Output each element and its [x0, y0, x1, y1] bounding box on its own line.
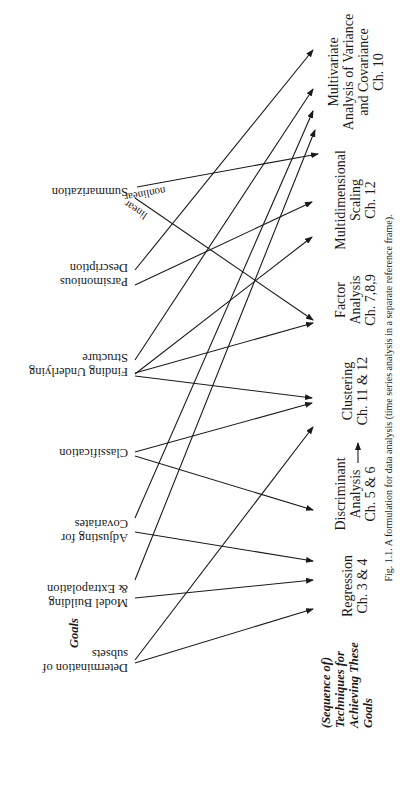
edges-layer: nonlinearlinear — [121, 50, 358, 663]
technique-label-line: Analysis — [348, 470, 363, 519]
technique-clustering: ClusteringCh. 11 & 12 — [340, 357, 370, 426]
technique-label-line: Ch. 12 — [363, 181, 378, 218]
goal-label-line: Summarization — [51, 185, 128, 199]
goal-label-line: Finding Underlying — [28, 365, 128, 379]
technique-label-line: Discriminant — [333, 457, 348, 530]
goal-label-line: & Extrapolation — [46, 582, 128, 596]
techniques-heading-line: Achieving These — [347, 642, 361, 729]
techniques-heading-line: (Sequence of) — [319, 657, 333, 728]
goal-parsimonious-description: DescriptionParsimonious — [60, 261, 128, 289]
technique-label-line: Scaling — [348, 179, 363, 221]
goal-label-line: subsets — [92, 647, 128, 661]
edge-summarization — [137, 154, 318, 187]
goal-label-line: Parsimonious — [60, 275, 128, 289]
edge-parsimonious-description — [135, 202, 312, 285]
edge-summarization — [135, 198, 313, 320]
goal-label-line: Description — [69, 261, 128, 275]
edge-finding-underlying-structure — [135, 237, 312, 374]
figure-caption: Fig. 1.1. A formulation for data analysi… — [383, 214, 395, 581]
goal-summarization: Summarization — [51, 185, 128, 199]
technique-label-line: Ch. 3 & 4 — [355, 558, 370, 613]
technique-label-line: Regression — [340, 555, 355, 617]
goal-label-line: Adjusting for — [60, 531, 128, 545]
technique-label-line: Ch. 7,8,9 — [363, 274, 378, 325]
goal-label-line: Model Building — [48, 596, 128, 610]
technique-label-line: Analysis — [348, 276, 363, 325]
goal-finding-underlying-structure: StructureFinding Underlying — [28, 351, 128, 379]
technique-regression: RegressionCh. 3 & 4 — [340, 555, 370, 617]
edge-classification — [135, 456, 313, 510]
edge-model-building-extrapolation — [135, 580, 313, 598]
technique-label-line: and Covariance — [356, 28, 371, 115]
goals-heading: Goals — [67, 618, 81, 648]
technique-label-line: Clustering — [340, 362, 355, 420]
goal-model-building-extrapolation: & ExtrapolationModel Building — [46, 582, 128, 610]
edge-finding-underlying-structure — [135, 323, 313, 373]
technique-label-line: Analysis of Variance — [341, 14, 356, 130]
technique-label-line: Multivariate — [326, 37, 341, 106]
techniques-heading: (Sequence of)Techniques forAchieving The… — [319, 642, 375, 729]
technique-factor-analysis: FactorAnalysisCh. 7,8,9 — [333, 274, 378, 325]
goal-label-line: Classification — [59, 446, 128, 460]
goal-label-line: Determination of — [41, 661, 128, 675]
goal-adjusting-for-covariates: CovariatesAdjusting for — [60, 517, 128, 545]
technique-multidimensional-scaling: MultidimensionalScalingCh. 12 — [333, 150, 378, 250]
techniques-heading-line: Techniques for — [333, 651, 347, 728]
goal-label-line: Structure — [82, 351, 128, 365]
goal-classification: Classification — [59, 446, 128, 460]
techniques-heading-line: Goals — [361, 698, 375, 728]
technique-label-line: Ch. 10 — [371, 53, 386, 90]
edge-adjusting-for-covariates — [135, 111, 313, 518]
edge-classification — [135, 403, 312, 452]
technique-discriminant-analysis: DiscriminantAnalysisCh. 5 & 6 — [333, 457, 378, 530]
edge-finding-underlying-structure — [135, 89, 313, 360]
goal-label-line: Covariates — [74, 517, 128, 531]
goal-determination-of-subsets: subsetsDetermination of — [41, 647, 128, 675]
edge-finding-underlying-structure — [135, 376, 312, 398]
technique-label-line: Factor — [333, 282, 348, 318]
techniques-layer: RegressionCh. 3 & 4DiscriminantAnalysisC… — [326, 14, 386, 617]
edge-determination-of-subsets — [135, 609, 313, 663]
technique-label-line: Ch. 11 & 12 — [355, 357, 370, 426]
technique-manova: MultivariateAnalysis of Varianceand Cova… — [326, 14, 386, 130]
goals-layer: SummarizationDescriptionParsimoniousStru… — [28, 185, 128, 675]
data-analysis-diagram: nonlinearlinear SummarizationDescription… — [0, 0, 406, 794]
technique-label-line: Ch. 5 & 6 — [363, 466, 378, 521]
edge-adjusting-for-covariates — [135, 532, 313, 561]
technique-label-line: Multidimensional — [333, 150, 348, 250]
edge-determination-of-subsets — [135, 427, 313, 660]
